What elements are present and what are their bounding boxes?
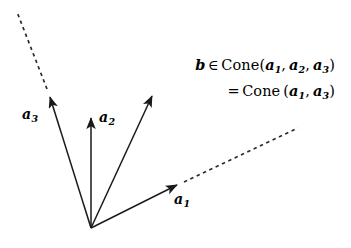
dashed-extension-a1 — [184, 128, 298, 182]
cone-function-name-1: Cone — [221, 57, 259, 73]
vector-arrow-a1 — [91, 185, 177, 228]
vector-label-a2-base: a — [99, 109, 108, 125]
vector-label-a3-subscript: 3 — [31, 113, 38, 124]
vector-arrow-a3 — [50, 97, 91, 228]
vector-canvas — [0, 0, 351, 248]
membership-symbol: ∈ — [208, 57, 219, 73]
vector-label-a1-subscript: 1 — [183, 198, 190, 209]
vector-label-a1: a1 — [174, 192, 190, 209]
vector-label-a2: a2 — [99, 110, 115, 127]
cone-arg-a2: a2 — [289, 56, 305, 73]
vector-label-a1-base: a — [174, 191, 183, 207]
equals-symbol: = — [227, 83, 239, 99]
annotation-line-1: b∈Cone(a1, a2, a3) — [195, 54, 335, 80]
cone-vector-diagram: a3 a2 a1 b∈Cone(a1, a2, a3) =Cone (a1, a… — [0, 0, 351, 248]
annotation-vector-b: b — [195, 56, 205, 73]
close-paren-1: ) — [329, 57, 335, 73]
cone-arg-a1: a1 — [265, 56, 281, 73]
annotation-line-2: =Cone (a1, a3) — [195, 80, 335, 106]
separator-1a: , — [281, 57, 286, 73]
cone-annotation: b∈Cone(a1, a2, a3) =Cone (a1, a3) — [195, 54, 335, 106]
dashed-extension-a3 — [17, 12, 47, 89]
cone2-arg-a3: a3 — [313, 82, 329, 99]
vector-label-a3-base: a — [22, 106, 31, 122]
vector-label-a3: a3 — [22, 107, 38, 124]
cone-arg-a3: a3 — [313, 56, 329, 73]
vector-label-a2-subscript: 2 — [108, 116, 115, 127]
cone-function-name-2: Cone — [242, 83, 280, 99]
close-paren-2: ) — [329, 83, 335, 99]
cone2-arg-a1: a1 — [289, 82, 305, 99]
separator-1b: , — [305, 57, 310, 73]
separator-2a: , — [305, 83, 310, 99]
